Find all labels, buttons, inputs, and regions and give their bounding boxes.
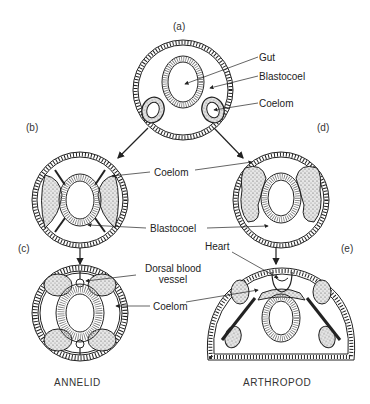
coelom-development-diagram [0,0,370,404]
label-coelom-ce: Coelom [153,301,187,312]
embryo-b [32,152,128,248]
caption-arthropod: ARTHROPOD [243,377,311,388]
panel-label-d: (d) [317,122,329,133]
embryo-d [233,152,329,248]
label-blastocoel-bd: Blastocoel [150,223,196,234]
panel-label-e: (e) [341,243,353,254]
label-dorsal-blood-vessel-line2: vessel [138,274,208,285]
panel-label-c: (c) [18,243,30,254]
label-dorsal-blood-vessel-line1: Dorsal blood [138,263,208,274]
label-coelom-a: Coelom [259,98,293,109]
panel-label-a: (a) [173,21,185,32]
label-blastocoel-a: Blastocoel [259,71,305,82]
embryo-c-annelid [32,265,150,361]
embryo-e-arthropod [186,252,355,360]
label-dorsal-blood-vessel: Dorsal blood vessel [138,263,208,285]
panel-label-b: (b) [26,122,38,133]
embryo-a [133,40,258,140]
label-gut: Gut [259,52,275,63]
caption-annelid: ANNELID [54,377,101,388]
label-coelom-bd: Coelom [154,167,188,178]
label-heart: Heart [205,241,229,252]
